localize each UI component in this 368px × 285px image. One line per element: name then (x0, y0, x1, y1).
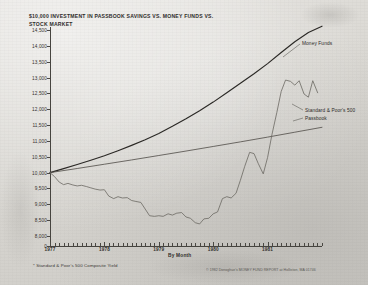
x-axis-minor-tick (118, 243, 119, 246)
x-axis-tick-label: 1980 (208, 247, 219, 252)
x-axis-title: By Month (168, 253, 191, 258)
x-axis-minor-tick (181, 243, 182, 246)
x-axis-minor-tick (91, 243, 92, 246)
y-axis-tick-mark (47, 125, 50, 126)
y-axis-tick-mark (47, 246, 50, 247)
x-axis-minor-tick (200, 243, 201, 246)
x-axis-minor-tick (308, 243, 309, 246)
x-axis-minor-tick (222, 243, 223, 246)
x-axis-minor-tick (322, 243, 323, 246)
x-axis-minor-tick (68, 243, 69, 246)
x-axis-minor-tick (154, 243, 155, 246)
x-axis-minor-tick (123, 243, 124, 246)
y-axis-tick-mark (47, 109, 50, 110)
x-axis-minor-tick (86, 243, 87, 246)
x-axis-minor-tick (218, 243, 219, 246)
x-axis-minor-tick (249, 243, 250, 246)
leader-sp500 (292, 104, 303, 110)
x-axis-minor-tick (104, 243, 105, 246)
x-axis-minor-tick (254, 243, 255, 246)
series-label-passbook: Passbook (305, 116, 327, 121)
x-axis-tick-label: 1978 (99, 247, 110, 252)
x-axis-minor-tick (150, 243, 151, 246)
x-axis-minor-tick (73, 243, 74, 246)
x-axis-minor-tick (295, 243, 296, 246)
leader-passbook (293, 118, 303, 121)
copyright-notice: © 1982 Donoghue's MONEY FUND REPORT at H… (206, 268, 316, 272)
x-axis-minor-tick (50, 243, 51, 246)
x-axis-minor-tick (163, 243, 164, 246)
series-label-money-funds: Money Funds (302, 41, 332, 46)
x-axis-minor-tick (195, 243, 196, 246)
x-axis-minor-tick (209, 243, 210, 246)
x-axis-minor-tick (100, 243, 101, 246)
y-axis-tick-mark (47, 173, 50, 174)
x-axis-minor-tick (272, 243, 273, 246)
y-axis-tick-mark (47, 30, 50, 31)
x-axis-minor-tick (299, 243, 300, 246)
x-axis-minor-tick (240, 243, 241, 246)
x-axis-tick-label: 1979 (153, 247, 164, 252)
x-axis-minor-tick (177, 243, 178, 246)
chart-figure: $10,000 INVESTMENT IN PASSBOOK SAVINGS V… (0, 0, 368, 285)
x-axis-minor-tick (286, 243, 287, 246)
x-axis-minor-tick (109, 243, 110, 246)
x-axis-minor-tick (145, 243, 146, 246)
x-axis-minor-tick (95, 243, 96, 246)
x-axis-minor-tick (191, 243, 192, 246)
y-axis-tick-mark (47, 78, 50, 79)
y-axis-tick-mark (47, 46, 50, 47)
y-axis-tick-mark (47, 62, 50, 63)
x-axis-minor-tick (236, 243, 237, 246)
x-axis-minor-tick (263, 243, 264, 246)
series-label-sp500: Standard & Poor's 500 (305, 108, 355, 113)
x-axis-minor-tick (204, 243, 205, 246)
x-axis-minor-tick (259, 243, 260, 246)
x-axis-minor-tick (186, 243, 187, 246)
x-axis-minor-tick (304, 243, 305, 246)
y-axis-tick-mark (47, 236, 50, 237)
y-axis-tick-mark (47, 93, 50, 94)
x-axis-minor-tick (136, 243, 137, 246)
x-axis-minor-tick (281, 243, 282, 246)
x-axis-minor-tick (141, 243, 142, 246)
y-axis-tick-mark (47, 188, 50, 189)
x-axis-minor-tick (231, 243, 232, 246)
x-axis-minor-tick (268, 243, 269, 246)
x-axis-minor-tick (317, 243, 318, 246)
x-axis-minor-tick (159, 243, 160, 246)
leader-money-funds (283, 44, 300, 57)
y-axis-tick-mark (47, 220, 50, 221)
x-axis-minor-tick (132, 243, 133, 246)
x-axis-minor-tick (245, 243, 246, 246)
x-axis-minor-tick (59, 243, 60, 246)
x-axis-minor-tick (213, 243, 214, 246)
x-axis-tick-label: 1977 (44, 247, 55, 252)
x-axis-minor-tick (113, 243, 114, 246)
x-axis-minor-tick (55, 243, 56, 246)
x-axis-minor-tick (64, 243, 65, 246)
x-axis-minor-tick (127, 243, 128, 246)
y-axis-tick-mark (47, 204, 50, 205)
x-axis-minor-tick (82, 243, 83, 246)
x-axis-minor-tick (277, 243, 278, 246)
x-axis-minor-tick (77, 243, 78, 246)
x-axis-minor-tick (313, 243, 314, 246)
x-axis-minor-tick (168, 243, 169, 246)
y-axis-tick-mark (47, 157, 50, 158)
x-axis-minor-tick (172, 243, 173, 246)
chart-footnote: * Standard & Poor's 500 Composite Yield (33, 263, 118, 268)
x-axis-tick-label: 1981 (262, 247, 273, 252)
x-axis-minor-tick (290, 243, 291, 246)
x-axis-minor-tick (227, 243, 228, 246)
y-axis-tick-mark (47, 141, 50, 142)
